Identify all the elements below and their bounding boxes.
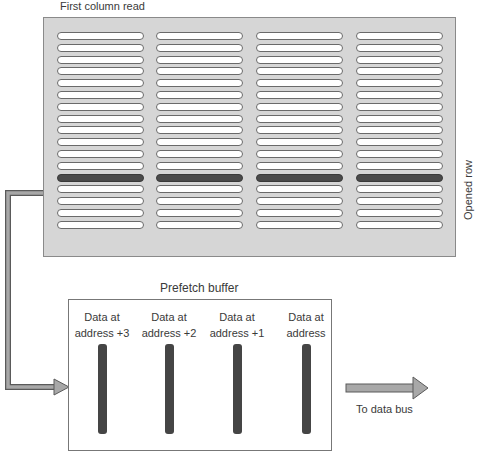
slot-line2: address +3 [67,325,137,341]
to-data-bus-label: To data bus [356,403,413,415]
slot-line2: address [271,325,341,341]
buffer-slot-bar [98,344,107,434]
slot-line1: Data at [134,309,204,325]
slot-label-1: Data at address +1 [202,309,272,341]
slot-label-0: Data at address [271,309,341,341]
row-to-buffer-arrow [8,193,69,395]
prefetch-buffer-title: Prefetch buffer [160,281,239,295]
slot-line1: Data at [67,309,137,325]
slot-line1: Data at [202,309,272,325]
buffer-slot-bar [233,344,242,434]
slot-label-2: Data at address +2 [134,309,204,341]
to-data-bus-arrow [346,377,428,399]
slot-label-3: Data at address +3 [67,309,137,341]
slot-line2: address +2 [134,325,204,341]
buffer-slot-bar [165,344,174,434]
buffer-slot-bar [302,344,311,434]
slot-line2: address +1 [202,325,272,341]
slot-line1: Data at [271,309,341,325]
prefetch-buffer: Data at address +3 Data at address +2 Da… [68,299,332,451]
